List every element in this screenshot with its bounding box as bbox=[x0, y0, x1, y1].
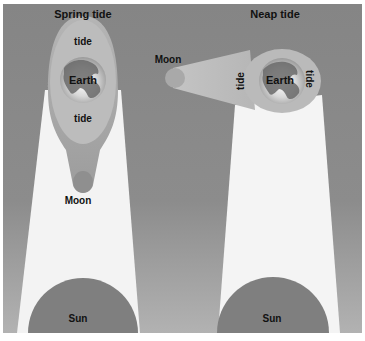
neap-tide-label-right: tide bbox=[304, 70, 315, 88]
neap-sun-label: Sun bbox=[263, 313, 282, 324]
neap-moon-label: Moon bbox=[155, 54, 182, 65]
spring-sun-label: Sun bbox=[69, 313, 88, 324]
spring-tide-label-top: tide bbox=[74, 36, 92, 47]
tides-diagram: Spring tide tide Earth tide Moon Sun Nea… bbox=[0, 0, 365, 341]
spring-tide-label-bottom: tide bbox=[74, 113, 92, 124]
spring-tide-title: Spring tide bbox=[54, 8, 111, 20]
neap-earth-label: Earth bbox=[266, 74, 294, 86]
spring-moon bbox=[73, 171, 93, 193]
neap-tide-title: Neap tide bbox=[250, 8, 300, 20]
neap-tide-label-left: tide bbox=[235, 72, 246, 90]
spring-moon-label: Moon bbox=[65, 195, 92, 206]
spring-earth-label: Earth bbox=[69, 74, 97, 86]
neap-moon bbox=[165, 68, 185, 88]
